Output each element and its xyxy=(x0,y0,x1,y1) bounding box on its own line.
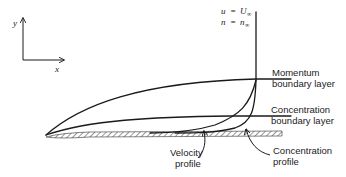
coordinate-axes: y x xyxy=(12,18,64,74)
boundary-layer-diagram: y x u = U ∞ n = n ∞ Momentum boundary la… xyxy=(0,0,346,177)
concentration-bl-label-line1: Concentration xyxy=(271,104,330,115)
concentration-profile-label-line1: Concentration xyxy=(273,145,332,156)
y-axis-label: y xyxy=(12,18,17,28)
velocity-profile-label-line2: profile xyxy=(175,158,201,169)
freestream-velocity-rhs: U xyxy=(240,6,247,16)
momentum-label-line1: Momentum xyxy=(272,67,320,78)
velocity-profile-curve xyxy=(175,12,256,133)
freestream-conditions: u = U ∞ n = n ∞ xyxy=(221,6,252,28)
momentum-label-line2: boundary layer xyxy=(272,78,335,89)
freestream-velocity-sub: ∞ xyxy=(247,11,252,17)
freestream-concentration-sub: ∞ xyxy=(245,22,250,28)
freestream-concentration-eq: = xyxy=(230,17,236,27)
velocity-profile-label-line1: Velocity xyxy=(170,147,203,158)
freestream-velocity-eq: = xyxy=(230,6,236,16)
freestream-velocity-lhs: u xyxy=(221,6,226,16)
concentration-profile-label-line2: profile xyxy=(273,156,299,167)
freestream-concentration-lhs: n xyxy=(221,17,226,27)
concentration-bl-label-line2: boundary layer xyxy=(271,115,334,126)
x-axis-label: x xyxy=(54,64,59,74)
